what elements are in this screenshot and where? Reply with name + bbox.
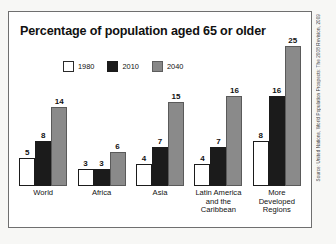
bar-1980: 4 — [194, 164, 210, 186]
category-label: Asia — [131, 189, 189, 198]
bar-2010: 7 — [152, 147, 168, 186]
bar-2040: 14 — [51, 107, 67, 186]
bar-2010: 7 — [210, 147, 226, 186]
bar-2010: 16 — [269, 96, 285, 186]
bar-value-label: 16 — [230, 86, 239, 95]
source-credit: Source: United Nations, World Population… — [313, 14, 325, 228]
bar-1980: 4 — [136, 164, 152, 186]
bar-group: 81625 — [251, 46, 303, 186]
category-axis: WorldAfricaAsiaLatin Americaand theCarib… — [14, 189, 306, 229]
bar-value-label: 8 — [41, 131, 45, 140]
bar-2010: 3 — [94, 169, 110, 186]
plot-area: 58143364715471681625 — [14, 40, 306, 186]
bar-value-label: 5 — [25, 148, 29, 157]
bar-value-label: 7 — [216, 137, 220, 146]
bar-2040: 6 — [110, 152, 126, 186]
bar-2040: 15 — [168, 102, 184, 186]
source-credit-text: Source: United Nations, World Population… — [313, 14, 325, 181]
bar-group: 4715 — [134, 102, 186, 186]
bar-value-label: 4 — [142, 154, 146, 163]
bar-value-label: 7 — [158, 137, 162, 146]
bar-value-label: 4 — [200, 154, 204, 163]
bar-2040: 25 — [285, 46, 301, 186]
category-label: Latin Americaand theCaribbean — [189, 189, 247, 215]
category-label: World — [14, 189, 72, 198]
bar-value-label: 14 — [55, 97, 64, 106]
bar-value-label: 15 — [172, 92, 181, 101]
category-label: Africa — [72, 189, 130, 198]
bar-value-label: 25 — [288, 36, 297, 45]
bar-2040: 16 — [226, 96, 242, 186]
page-title: Percentage of population aged 65 or olde… — [20, 24, 300, 38]
bar-1980: 5 — [19, 158, 35, 186]
category-label: MoreDevelopedRegions — [248, 189, 306, 215]
bar-value-label: 6 — [115, 142, 119, 151]
bar-value-label: 16 — [272, 86, 281, 95]
bar-value-label: 3 — [99, 159, 103, 168]
bar-group: 5814 — [17, 107, 69, 186]
chart-figure: Percentage of population aged 65 or olde… — [0, 0, 336, 244]
bar-1980: 3 — [78, 169, 94, 186]
bar-value-label: 8 — [259, 131, 263, 140]
bar-group: 4716 — [192, 96, 244, 186]
bar-value-label: 3 — [83, 159, 87, 168]
bar-1980: 8 — [253, 141, 269, 186]
bar-group: 336 — [76, 152, 128, 186]
bar-2010: 8 — [35, 141, 51, 186]
